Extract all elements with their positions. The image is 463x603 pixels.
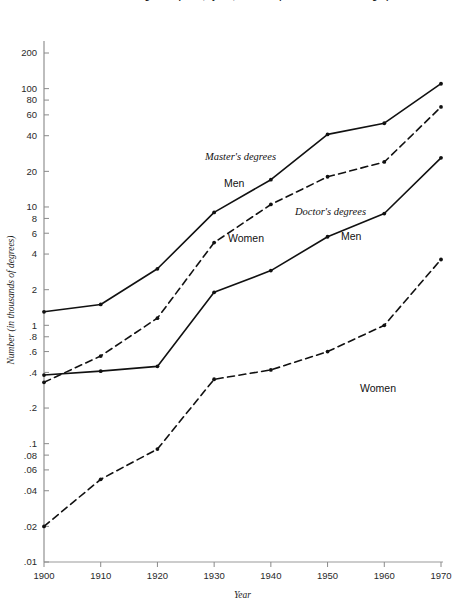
- data-point: [326, 175, 330, 179]
- y-tick-label: .08: [24, 450, 37, 461]
- y-tick-label: .06: [24, 464, 37, 475]
- y-tick-label: 10: [26, 201, 37, 212]
- y-tick-label: .01: [24, 556, 37, 567]
- data-point: [326, 235, 330, 239]
- x-tick-label: 1970: [430, 570, 451, 581]
- y-tick-label: 8: [32, 213, 37, 224]
- data-point: [42, 524, 46, 528]
- series-line-1: [44, 107, 441, 382]
- data-point: [326, 133, 330, 137]
- series-annotation: Master's degrees: [204, 151, 276, 162]
- y-tick-label: .4: [29, 367, 37, 378]
- data-point: [382, 121, 386, 125]
- data-point: [212, 377, 216, 381]
- y-tick-label: .1: [29, 438, 37, 449]
- data-point: [42, 373, 46, 377]
- x-tick-label: 1940: [260, 570, 281, 581]
- data-point: [99, 303, 103, 307]
- data-point: [269, 203, 273, 207]
- data-point: [382, 212, 386, 216]
- data-point: [156, 316, 160, 320]
- y-tick-label: 200: [21, 47, 37, 58]
- y-axis-title: Number (in thousands of degrees): [6, 236, 17, 366]
- series-line-0: [44, 84, 441, 312]
- y-tick-label: .8: [29, 331, 37, 342]
- data-point: [156, 364, 160, 368]
- data-point: [99, 369, 103, 373]
- data-point: [269, 178, 273, 182]
- y-tick-label: 1: [32, 320, 37, 331]
- data-point: [326, 350, 330, 354]
- series-annotation: Women: [360, 382, 396, 394]
- data-point: [156, 447, 160, 451]
- x-axis-title: Year: [234, 590, 251, 600]
- y-tick-label: 80: [26, 94, 37, 105]
- data-point: [269, 368, 273, 372]
- y-tick-label: 2: [32, 284, 37, 295]
- chart-plot-area: 200100806040201086421.8.6.4.2.1.08.06.04…: [0, 0, 463, 603]
- series-annotation: Women: [228, 232, 264, 244]
- y-tick-label: .04: [24, 485, 37, 496]
- data-point: [439, 156, 443, 160]
- data-point: [269, 269, 273, 273]
- x-tick-label: 1930: [204, 570, 225, 581]
- data-point: [42, 310, 46, 314]
- x-tick-label: 1910: [90, 570, 111, 581]
- series-annotation: Men: [341, 230, 362, 242]
- data-point: [212, 210, 216, 214]
- series-line-2: [44, 158, 441, 375]
- y-tick-label: 100: [21, 83, 37, 94]
- y-tick-label: 40: [26, 130, 37, 141]
- series-annotation: Doctor's degrees: [294, 206, 366, 217]
- x-tick-label: 1900: [33, 570, 54, 581]
- y-tick-label: 60: [26, 109, 37, 120]
- x-tick-label: 1920: [147, 570, 168, 581]
- data-point: [156, 267, 160, 271]
- data-point: [439, 258, 443, 262]
- data-point: [99, 354, 103, 358]
- data-point: [212, 241, 216, 245]
- y-tick-label: 4: [32, 248, 37, 259]
- data-point: [382, 160, 386, 164]
- x-tick-label: 1950: [317, 570, 338, 581]
- data-point: [212, 290, 216, 294]
- y-tick-label: 20: [26, 166, 37, 177]
- x-tick-label: 1960: [374, 570, 395, 581]
- y-tick-label: .2: [29, 402, 37, 413]
- data-point: [99, 477, 103, 481]
- series-annotation: Men: [224, 177, 245, 189]
- data-point: [439, 105, 443, 109]
- y-tick-label: .02: [24, 521, 37, 532]
- data-point: [439, 82, 443, 86]
- y-tick-label: 6: [32, 228, 37, 239]
- data-point: [42, 380, 46, 384]
- data-point: [382, 323, 386, 327]
- y-tick-label: .6: [29, 346, 37, 357]
- chart-svg: 200100806040201086421.8.6.4.2.1.08.06.04…: [0, 0, 463, 603]
